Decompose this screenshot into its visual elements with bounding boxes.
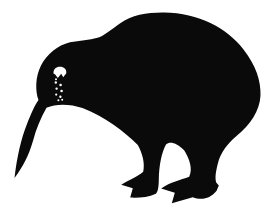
illustration-canvas: [0, 0, 266, 217]
kiwi-bird-illustration: [0, 0, 266, 217]
kiwi-body-silhouette: [15, 13, 261, 204]
